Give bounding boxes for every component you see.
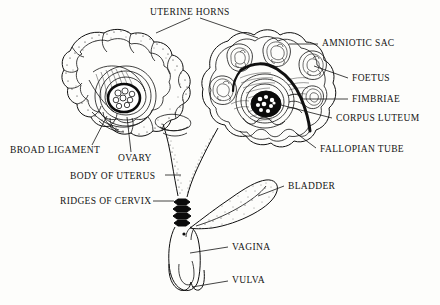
label-amniotic-sac: AMNIOTIC SAC	[322, 39, 395, 49]
right-ovary	[236, 74, 304, 128]
right-uterine-horn	[202, 30, 336, 147]
label-corpus-luteum: CORPUS LUTEUM	[336, 114, 419, 124]
label-fimbriae: FIMBRIAE	[352, 95, 400, 105]
vagina-tube	[169, 227, 201, 291]
label-vagina: VAGINA	[232, 243, 270, 253]
cervix	[173, 199, 191, 226]
label-ridges-of-cervix: RIDGES OF CERVIX	[60, 197, 151, 207]
label-broad-ligament: BROAD LIGAMENT	[10, 146, 100, 156]
label-foetus: FOETUS	[352, 74, 390, 84]
label-ovary: OVARY	[118, 154, 152, 164]
label-vulva: VULVA	[232, 276, 265, 286]
label-bladder: BLADDER	[288, 182, 335, 192]
label-body-of-uterus: BODY OF UTERUS	[70, 172, 155, 182]
label-uterine-horns: UTERINE HORNS	[150, 8, 230, 18]
label-fallopian-tube: FALLOPIAN TUBE	[320, 145, 404, 155]
bladder-shape	[186, 180, 277, 240]
foetus-compartment	[299, 51, 326, 80]
foetus-compartment	[263, 38, 291, 67]
uterus-body	[155, 114, 218, 197]
